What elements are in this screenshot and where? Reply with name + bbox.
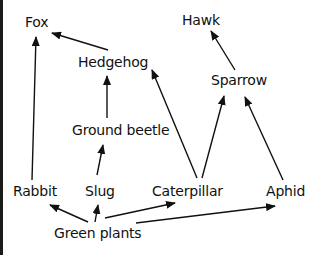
node-hedgehog: Hedgehog — [78, 54, 148, 70]
node-green-plants: Green plants — [54, 225, 141, 241]
arrow-hedgehog-to-fox — [52, 33, 108, 50]
arrow-green-plants-to-rabbit — [50, 205, 88, 222]
food-web-diagram: Fox Hawk Hedgehog Sparrow Ground beetle … — [0, 0, 326, 255]
node-ground-beetle: Ground beetle — [72, 122, 169, 138]
arrow-rabbit-to-fox — [32, 37, 36, 180]
arrow-sparrow-to-hawk — [211, 31, 235, 70]
node-slug: Slug — [85, 183, 115, 199]
node-fox: Fox — [25, 14, 48, 30]
arrow-green-plants-to-slug — [95, 205, 98, 222]
arrow-green-plants-to-aphid — [136, 206, 275, 223]
arrow-caterpillar-to-sparrow — [202, 96, 224, 178]
node-sparrow: Sparrow — [211, 72, 267, 88]
node-hawk: Hawk — [182, 12, 220, 28]
node-rabbit: Rabbit — [13, 183, 57, 199]
arrow-green-plants-to-caterpillar — [105, 203, 175, 218]
node-caterpillar: Caterpillar — [152, 183, 223, 199]
arrow-aphid-to-sparrow — [245, 97, 283, 180]
arrow-slug-to-ground-beetle — [97, 145, 103, 175]
node-aphid: Aphid — [266, 183, 305, 199]
